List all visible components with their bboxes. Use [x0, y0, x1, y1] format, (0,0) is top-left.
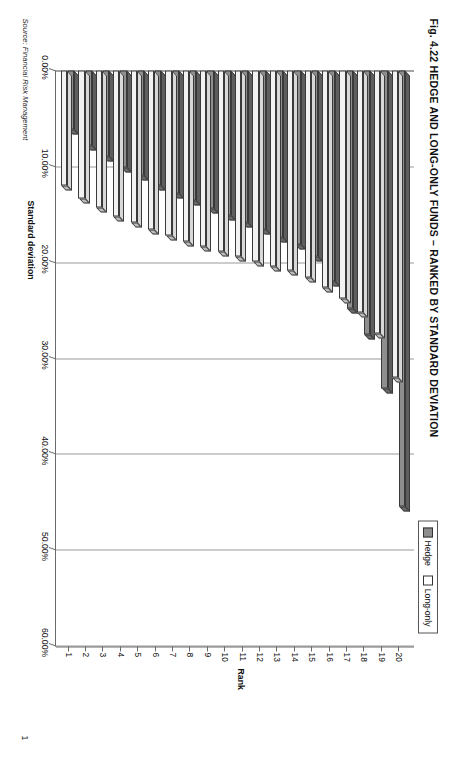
bar-longonly-rank-18 [357, 70, 363, 312]
category-axis-tick-label-14: 14 [290, 652, 300, 661]
source-note: Source: Financial Risk Management [21, 18, 30, 140]
bar-longonly-rank-10 [218, 70, 224, 251]
category-axis-tick-mark [172, 646, 173, 651]
category-axis-tick-mark [277, 646, 278, 651]
category-axis-tick-mark [398, 646, 399, 651]
bar-top-face [241, 70, 246, 261]
legend-item-hedge: Hedge [423, 527, 433, 565]
category-axis-tick-label-10: 10 [220, 652, 230, 661]
bar-face [218, 70, 224, 251]
category-axis-tick-label-1: 1 [64, 652, 74, 657]
category-axis-tick-label-13: 13 [273, 652, 283, 661]
value-axis-tick-label: 20.00% [40, 244, 50, 273]
bar-longonly-rank-11 [235, 70, 241, 256]
bar-longonly-rank-19 [374, 70, 380, 333]
category-axis-tick-label-2: 2 [81, 652, 91, 657]
bar-top-face [206, 70, 211, 252]
category-axis-tick-mark [120, 646, 121, 651]
figure-title: Fig. 4.22 HEDGE AND LONG-ONLY FUNDS – RA… [428, 18, 440, 437]
bar-longonly-rank-16 [322, 70, 328, 287]
bar-top-face [276, 70, 281, 271]
bar-top-face [259, 70, 264, 266]
bar-face [165, 70, 171, 235]
category-axis-tick-mark [85, 646, 86, 651]
category-axis-tick-mark [364, 646, 365, 651]
category-axis-tick-label-5: 5 [133, 652, 143, 657]
category-axis-tick-mark [137, 646, 138, 651]
category-axis-tick-label-19: 19 [377, 652, 387, 661]
bar-top-face [67, 70, 72, 191]
category-axis-tick-label-11: 11 [238, 652, 248, 661]
value-axis-tick-label: 30.00% [40, 340, 50, 369]
bar-face [305, 70, 311, 277]
bar-longonly-rank-3 [96, 70, 102, 207]
bar-face [339, 70, 345, 298]
category-axis-tick-label-12: 12 [255, 652, 265, 661]
bar-top-face [293, 70, 298, 276]
bar-top-face [172, 70, 177, 240]
bar-top-face [311, 70, 316, 283]
bar-top-face [405, 70, 410, 512]
legend-swatch-long-only-icon [423, 575, 433, 585]
category-axis-tick-mark [207, 646, 208, 651]
bar-longonly-rank-15 [305, 70, 311, 277]
bar-top-face [154, 70, 159, 235]
bar-face [78, 70, 84, 198]
bar-longonly-rank-8 [183, 70, 189, 241]
category-axis-tick-label-8: 8 [186, 652, 196, 657]
category-axis-tick-label-16: 16 [325, 652, 335, 661]
bar-longonly-rank-20 [392, 70, 398, 377]
category-axis-line [56, 646, 414, 647]
bar-top-face [346, 70, 351, 304]
bar-top-face [189, 70, 194, 246]
bar-longonly-rank-9 [200, 70, 206, 246]
bar-face [131, 70, 137, 222]
page-number: 1 [20, 735, 30, 740]
category-axis-tick-label-17: 17 [342, 652, 352, 661]
bar-face [392, 70, 398, 377]
value-axis-tick-label: 60.00% [40, 627, 50, 656]
value-axis-tick-label: 50.00% [40, 532, 50, 561]
bar-longonly-rank-2 [78, 70, 84, 198]
category-axis-tick-label-4: 4 [116, 652, 126, 657]
category-axis-tick-mark [190, 646, 191, 651]
legend-label-long-only: Long-only [423, 588, 433, 626]
category-axis-tick-mark [155, 646, 156, 651]
bar-top-face [363, 70, 368, 317]
bar-top-face [102, 70, 107, 213]
bar-top-face [224, 70, 229, 257]
category-axis-tick-label-3: 3 [99, 652, 109, 657]
category-axis-tick-mark [242, 646, 243, 651]
bar-longonly-rank-1 [61, 70, 67, 185]
value-axis-tick-label: 40.00% [40, 436, 50, 465]
bar-top-face [119, 70, 124, 221]
legend-label-hedge: Hedge [423, 540, 433, 565]
legend-item-long-only: Long-only [423, 575, 433, 626]
category-axis-tick-label-18: 18 [360, 652, 370, 661]
bar-longonly-rank-4 [113, 70, 119, 216]
category-axis-tick-label-6: 6 [151, 652, 161, 657]
value-axis-tick-mark [49, 67, 56, 71]
chart-legend: Hedge Long-only [418, 520, 438, 633]
category-axis-tick-mark [259, 646, 260, 651]
bar-longonly-rank-12 [252, 70, 258, 261]
category-axis-tick-mark [381, 646, 382, 651]
bar-top-face [398, 70, 403, 382]
category-axis-tick-label-15: 15 [307, 652, 317, 661]
category-axis-tick-mark [346, 646, 347, 651]
bar-longonly-rank-13 [270, 70, 276, 266]
bar-longonly-rank-14 [287, 70, 293, 270]
bar-longonly-rank-6 [148, 70, 154, 229]
figure-canvas: Fig. 4.22 HEDGE AND LONG-ONLY FUNDS – RA… [0, 0, 454, 769]
bar-face [252, 70, 258, 261]
bar-top-face [328, 70, 333, 292]
category-axis-tick-mark [294, 646, 295, 651]
category-axis-tick-label-7: 7 [168, 652, 178, 657]
gridline-40.00% [56, 453, 414, 454]
category-axis-tick-mark [103, 646, 104, 651]
bar-longonly-rank-5 [131, 70, 137, 222]
category-axis-tick-mark [68, 646, 69, 651]
value-axis-title: Standard deviation [26, 200, 36, 279]
bar-top-face [380, 70, 385, 338]
bar-longonly-rank-7 [165, 70, 171, 235]
